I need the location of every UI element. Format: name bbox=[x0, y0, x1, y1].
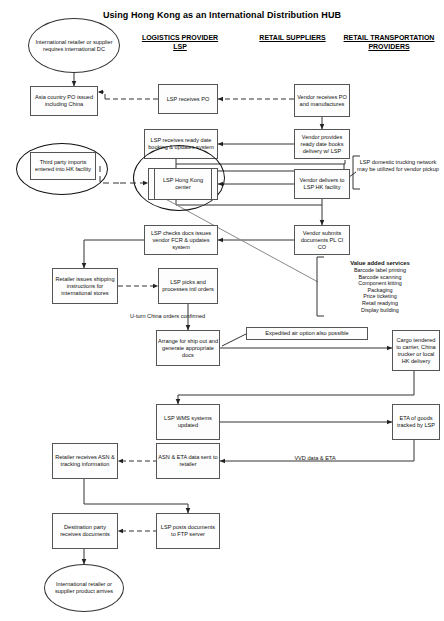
node-vendor-delivers-to-lsp[interactable]: Vendor delivers to LSP HK facility bbox=[294, 169, 350, 199]
vas-item: Retail readying bbox=[321, 300, 439, 307]
node-retailer-issues-shipping[interactable]: Retailer issues shipping instructions fo… bbox=[52, 268, 118, 304]
node-end-international-retailer[interactable]: International retailer or supplier produ… bbox=[44, 564, 124, 612]
node-arrange-for-ship-out[interactable]: Arrange for ship out and generate approp… bbox=[156, 330, 220, 366]
column-header-retail-suppliers: RETAIL SUPPLIERS bbox=[250, 33, 335, 42]
node-vendor-submits-documents[interactable]: Vendor submits documents PL CI CO bbox=[294, 225, 350, 255]
column-header-logistics-line2: LSP bbox=[125, 42, 235, 51]
node-third-party-imports[interactable]: Third party imports entered into HK faci… bbox=[30, 152, 96, 180]
vas-item: Component kitting bbox=[321, 280, 439, 287]
vas-item: Display building bbox=[321, 307, 439, 314]
vas-item: Price ticketing bbox=[321, 293, 439, 300]
vas-item: Packaging bbox=[321, 287, 439, 294]
vas-item: Barcode scanning bbox=[321, 274, 439, 281]
node-cargo-tendered[interactable]: Cargo tendered to carrier, China trucker… bbox=[392, 330, 440, 371]
node-lsp-hong-kong-center[interactable]: LSP Hong Kong center bbox=[148, 168, 218, 200]
column-header-logistics-provider: LOGISTICS PROVIDER LSP bbox=[125, 33, 235, 51]
value-added-services-title: Value added services bbox=[321, 260, 439, 267]
column-header-logistics-line1: LOGISTICS PROVIDER bbox=[125, 33, 235, 42]
node-lsp-receives-po[interactable]: LSP receives PO bbox=[158, 84, 218, 114]
node-lsp-wms-updated[interactable]: LSP WMS systems updated bbox=[156, 404, 220, 440]
process-bar-right bbox=[211, 169, 212, 199]
node-lsp-checks-docs[interactable]: LSP checks docs issues vendor FCR & upda… bbox=[144, 225, 218, 255]
value-added-services-panel: Value added services Barcode label print… bbox=[318, 258, 442, 315]
node-lsp-picks-processes[interactable]: LSP picks and processes intl orders bbox=[158, 268, 218, 304]
node-retailer-receives-asn[interactable]: Retailer receives ASN & tracking informa… bbox=[52, 443, 118, 479]
node-asn-eta-data-sent[interactable]: ASN & ETA data sent to retailer bbox=[156, 443, 220, 479]
node-vendor-receives-po[interactable]: Vendor receives PO and manufactures bbox=[294, 84, 350, 117]
note-lsp-domestic-trucking: LSP domestic trucking network may be uti… bbox=[354, 157, 442, 175]
column-header-retail-transportation: RETAIL TRANSPORTATION PROVIDERS bbox=[336, 33, 442, 51]
column-header-retail-suppliers-label: RETAIL SUPPLIERS bbox=[250, 33, 335, 42]
node-vendor-provides-ready-date[interactable]: Vendor provides ready date books deliver… bbox=[294, 129, 350, 159]
column-header-retail-transport-line2: PROVIDERS bbox=[336, 42, 442, 51]
node-destination-party[interactable]: Destination party receives documents bbox=[52, 513, 118, 549]
label-vvd-data-eta: VVD data & ETA bbox=[280, 455, 350, 462]
diagram-canvas: Using Hong Kong as an International Dist… bbox=[0, 0, 444, 621]
column-header-retail-transport-line1: RETAIL TRANSPORTATION bbox=[336, 33, 442, 42]
node-asia-country-po[interactable]: Asia country PO issued including China bbox=[30, 86, 98, 116]
label-u-turn-china-orders: U-turn China orders confirmed bbox=[130, 313, 250, 320]
node-start-international-retailer[interactable]: International retailer or supplier requi… bbox=[28, 18, 120, 73]
node-eta-of-goods[interactable]: ETA of goods tracked by LSP bbox=[392, 404, 440, 440]
node-lsp-hong-kong-center-label: LSP Hong Kong center bbox=[155, 169, 211, 199]
node-lsp-posts-documents[interactable]: LSP posts documents to FTP server bbox=[156, 513, 220, 549]
vas-item: Barcode label printing bbox=[321, 267, 439, 274]
note-expedited-air-option: Expedited air option also possible bbox=[246, 327, 368, 340]
